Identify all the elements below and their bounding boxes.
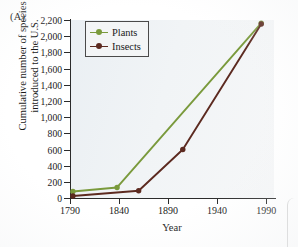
- y-tick-1200: [64, 101, 70, 102]
- y-tick-200: [64, 182, 70, 183]
- y-tick-1400: [64, 85, 70, 86]
- y-tick-label-1000: 1,000: [4, 112, 62, 123]
- y-axis-line: [70, 19, 71, 199]
- legend-label-plants: Plants: [112, 27, 137, 38]
- x-tick-1990: [266, 198, 267, 204]
- legend-entry-plants: Plants: [90, 25, 141, 39]
- legend: Plants Insects: [85, 21, 149, 57]
- y-tick-label-800: 800: [4, 128, 62, 139]
- y-tick-400: [64, 166, 70, 167]
- y-tick-label-400: 400: [4, 160, 62, 171]
- y-tick-2200: [64, 20, 70, 21]
- y-tick-label-2200: 2,200: [4, 15, 62, 26]
- y-tick-600: [64, 150, 70, 151]
- y-tick-label-600: 600: [4, 144, 62, 155]
- x-tick-label-1990: 1990: [244, 205, 288, 216]
- y-tick-1600: [64, 69, 70, 70]
- y-tick-1000: [64, 117, 70, 118]
- y-tick-800: [64, 133, 70, 134]
- y-tick-2000: [64, 36, 70, 37]
- x-axis-title: Year: [70, 222, 274, 233]
- x-tick-label-1790: 1790: [48, 205, 92, 216]
- y-tick-label-1600: 1,600: [4, 63, 62, 74]
- x-tick-1940: [217, 198, 218, 204]
- x-axis-line: [69, 198, 276, 199]
- y-tick-1800: [64, 52, 70, 53]
- x-tick-label-1890: 1890: [146, 205, 190, 216]
- legend-entry-insects: Insects: [90, 39, 141, 53]
- x-tick-1840: [119, 198, 120, 204]
- y-tick-label-1800: 1,800: [4, 47, 62, 58]
- figure-panel-a: (A) Cumulative number of species introdu…: [0, 0, 298, 247]
- y-tick-label-1200: 1,200: [4, 95, 62, 106]
- legend-marker-insects-icon: [90, 41, 108, 51]
- x-tick-label-1940: 1940: [195, 205, 239, 216]
- legend-label-insects: Insects: [112, 41, 141, 52]
- y-tick-label-2000: 2,000: [4, 31, 62, 42]
- page-edge-artifact: [287, 198, 298, 247]
- y-tick-label-200: 200: [4, 176, 62, 187]
- y-tick-label-1400: 1,400: [4, 79, 62, 90]
- y-tick-label-0: 0: [4, 193, 62, 204]
- x-tick-label-1840: 1840: [97, 205, 141, 216]
- x-tick-1890: [168, 198, 169, 204]
- legend-marker-plants-icon: [90, 27, 108, 37]
- x-tick-1790: [70, 198, 71, 204]
